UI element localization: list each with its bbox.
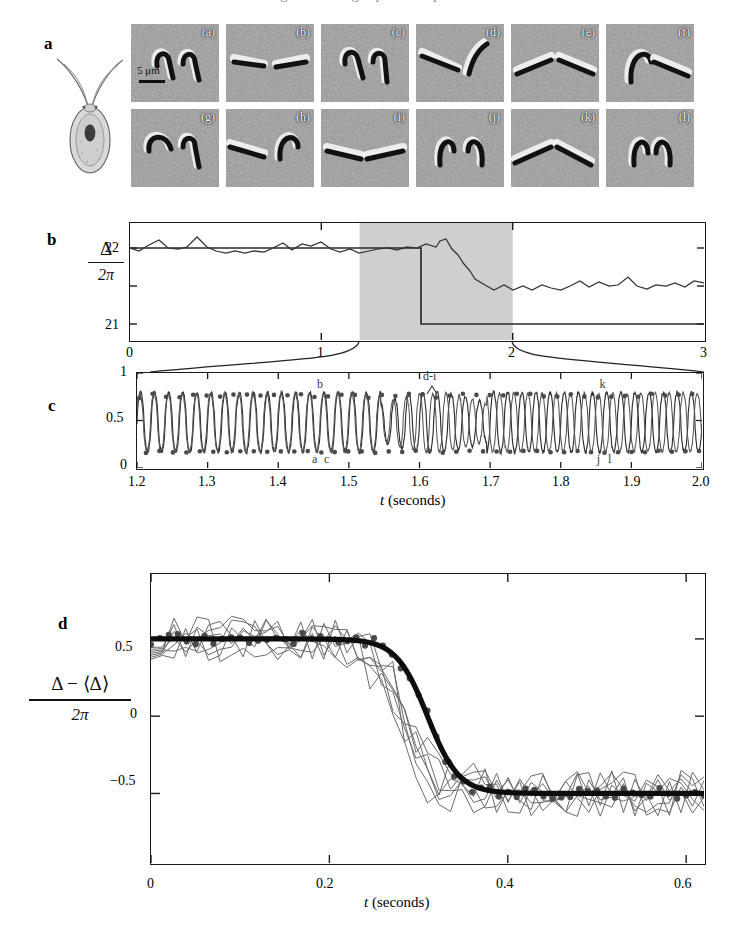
micrograph-tag: (c) bbox=[392, 25, 405, 40]
micrograph-b: (b) bbox=[226, 24, 314, 102]
micrograph-l: (l) bbox=[606, 109, 694, 187]
panel-c-xlabel-units: (seconds) bbox=[388, 492, 445, 508]
micrograph-a: 5 μm (a) bbox=[131, 24, 219, 102]
micrograph-tag: (f) bbox=[678, 25, 690, 40]
panel-letter-c: c bbox=[48, 396, 56, 416]
panel-letter-d: d bbox=[58, 614, 67, 634]
panel-c-plot bbox=[136, 372, 704, 470]
fraction-bar bbox=[29, 699, 131, 701]
micrograph-e: (e) bbox=[511, 24, 599, 102]
panel-b-xtick-0: 0 bbox=[126, 345, 133, 361]
micrograph-tag: (b) bbox=[296, 25, 310, 40]
panel-c-xtick-2p0: 2.0 bbox=[692, 474, 710, 490]
panel-c-annotation-j: j bbox=[597, 452, 600, 467]
panel-d-xtick-0p6: 0.6 bbox=[674, 876, 692, 892]
panel-c-ytick-0: 0 bbox=[120, 457, 127, 473]
panel-d-xtick-0p4: 0.4 bbox=[496, 876, 514, 892]
micrograph-j: (j) bbox=[416, 109, 504, 187]
figure-root: oscillation of the two flagella during a… bbox=[0, 0, 739, 933]
cropped-caption-strip: oscillation of the two flagella during a… bbox=[0, 0, 739, 13]
micrograph-tag: (h) bbox=[296, 110, 310, 125]
panel-c-xlabel-symbol: t bbox=[380, 492, 384, 508]
panel-d-ytick-neg0p5: −0.5 bbox=[110, 773, 135, 789]
micrograph-tag: (a) bbox=[202, 25, 215, 40]
micrograph-f: (f) bbox=[606, 24, 694, 102]
chlamydomonas-cell-drawing bbox=[40, 38, 140, 188]
panel-c-xtick-1p4: 1.4 bbox=[269, 474, 287, 490]
panel-c-xtick-1p5: 1.5 bbox=[340, 474, 358, 490]
panel-c-xtick-1p7: 1.7 bbox=[482, 474, 500, 490]
panel-b-xtick-2: 2 bbox=[508, 345, 515, 361]
micrograph-c: (c) bbox=[321, 24, 409, 102]
panel-d-ytick-0: 0 bbox=[130, 706, 137, 722]
panel-c-annotation-a: a bbox=[312, 452, 317, 467]
panel-c-ytick-1: 1 bbox=[120, 364, 127, 380]
scale-bar-label: 5 μm bbox=[137, 64, 160, 76]
panel-c-annotation-l: l bbox=[608, 452, 611, 467]
panel-c-xtick-1p6: 1.6 bbox=[411, 474, 429, 490]
fraction-bar bbox=[88, 262, 124, 263]
panel-c-annotation-c: c bbox=[324, 452, 329, 467]
panel-d-xlabel: t (seconds) bbox=[364, 894, 429, 911]
panel-d-xlabel-symbol: t bbox=[364, 894, 368, 910]
micrograph-tag: (k) bbox=[581, 110, 595, 125]
micrograph-tag: (i) bbox=[394, 110, 405, 125]
micrograph-tag: (l) bbox=[679, 110, 690, 125]
panel-c-annotation-b: b bbox=[317, 377, 323, 392]
micrograph-tag: (j) bbox=[489, 110, 500, 125]
panel-c-xtick-1p2: 1.2 bbox=[128, 474, 146, 490]
panel-b-ytick-22: 22 bbox=[105, 240, 119, 256]
panel-c-caret-icon bbox=[426, 382, 438, 400]
panel-b-xtick-3: 3 bbox=[700, 345, 707, 361]
panel-d-xtick-0p2: 0.2 bbox=[316, 876, 334, 892]
panel-b-xtick-1: 1 bbox=[317, 345, 324, 361]
panel-c-xtick-1p9: 1.9 bbox=[623, 474, 641, 490]
panel-b-plot bbox=[129, 222, 706, 342]
micrograph-tag: (e) bbox=[582, 25, 595, 40]
panel-d-plot bbox=[150, 573, 706, 865]
micrograph-h: (h) bbox=[226, 109, 314, 187]
panel-b-ytick-21: 21 bbox=[105, 317, 119, 333]
panel-d-ytick-0p5: 0.5 bbox=[115, 639, 133, 655]
micrograph-k: (k) bbox=[511, 109, 599, 187]
panel-d-xlabel-units: (seconds) bbox=[372, 894, 429, 910]
micrograph-grid: 5 μm (a) (b) bbox=[131, 24, 694, 194]
panel-c-xlabel: t (seconds) bbox=[380, 492, 445, 509]
cropped-caption-text: oscillation of the two flagella during a… bbox=[118, 0, 628, 3]
panel-c-ytick-0p5: 0.5 bbox=[106, 410, 124, 426]
panel-c-xtick-1p8: 1.8 bbox=[552, 474, 570, 490]
panel-d-xtick-0: 0 bbox=[147, 876, 154, 892]
scale-bar-line bbox=[139, 80, 165, 83]
micrograph-tag: (g) bbox=[201, 110, 215, 125]
micrograph-d: (d) bbox=[416, 24, 504, 102]
panel-letter-b: b bbox=[47, 230, 56, 250]
panel-d-ylabel-denominator: 2π bbox=[25, 704, 135, 726]
panel-d-ylabel: Δ − ⟨Δ⟩ 2π bbox=[25, 672, 135, 726]
panel-d-ylabel-numerator: Δ − ⟨Δ⟩ bbox=[25, 672, 135, 696]
micrograph-tag: (d) bbox=[486, 25, 500, 40]
panel-c-annotation-k: k bbox=[600, 377, 606, 392]
micrograph-i: (i) bbox=[321, 109, 409, 187]
panel-b-ylabel-denominator: 2π bbox=[86, 265, 126, 285]
panel-c-xtick-1p3: 1.3 bbox=[198, 474, 216, 490]
micrograph-g: (g) bbox=[131, 109, 219, 187]
